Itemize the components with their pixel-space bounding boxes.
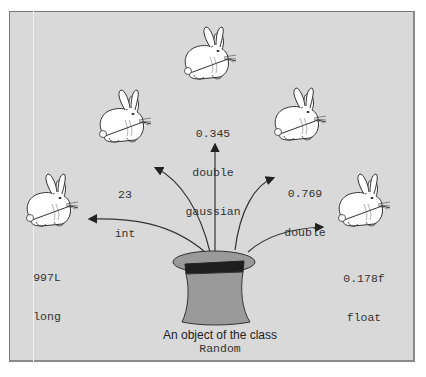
rabbit-int-icon [100,90,152,142]
rabbit-gaussian-value: 0.345 [178,127,248,140]
rabbit-long-type: long [22,310,72,323]
rabbit-long-value: 997L [22,271,72,284]
rabbit-int-label: 23 int [100,162,150,253]
rabbit-double-label: 0.769 double [275,161,335,252]
rabbit-long-icon [27,174,79,226]
rabbit-float-label: 0.178f float [334,246,394,337]
rabbit-float-icon [339,174,391,226]
rabbit-gaussian-type: double [178,166,248,179]
caption-class-name: Random [150,342,290,356]
rabbit-double-icon [275,88,327,140]
rabbit-double-value: 0.769 [275,187,335,200]
hat-caption: An object of the class Random [150,328,290,356]
caption-text: An object of the class [163,328,277,342]
rabbit-int-type: int [100,227,150,240]
rabbit-int-value: 23 [100,188,150,201]
rabbit-gaussian-extra: gaussian [178,205,248,218]
rabbit-float-type: float [334,311,394,324]
rabbit-float-value: 0.178f [334,272,394,285]
rabbit-double-type: double [275,226,335,239]
rabbit-gaussian-icon [185,27,237,79]
rabbit-long-label: 997L long [22,245,72,336]
rabbit-gaussian-label: 0.345 double gaussian [178,101,248,231]
top-hat-icon [173,251,255,325]
